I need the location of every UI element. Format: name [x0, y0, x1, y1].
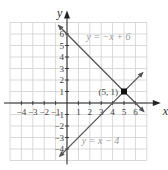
x-tick-label: 6 — [133, 107, 138, 117]
graph: xy −4−3−2−1123456−4−3−2−1123456 y = −x +… — [0, 0, 168, 170]
x-tick-label: −4 — [17, 107, 27, 117]
series-label: y = −x + 6 — [85, 31, 130, 42]
intersection-point-label: (5, 1) — [99, 87, 119, 97]
y-tick-label: −1 — [54, 110, 64, 120]
x-tick-label: 4 — [110, 107, 115, 117]
y-tick-label: 1 — [60, 87, 65, 97]
y-tick-label: 3 — [60, 64, 65, 74]
y-tick-label: −3 — [54, 133, 64, 143]
y-tick-label: 2 — [60, 75, 65, 85]
y-tick-label: 4 — [60, 52, 65, 62]
y-axis-arrow-icon — [64, 11, 70, 19]
x-axis-label: x — [162, 104, 168, 118]
annotations: (5, 1) — [99, 87, 128, 97]
y-tick-label: −2 — [54, 121, 64, 131]
intersection-point-marker — [121, 89, 127, 95]
series-label: y = x − 4 — [81, 135, 119, 146]
y-axis-label: y — [56, 6, 63, 20]
x-tick-label: 5 — [122, 107, 127, 117]
x-tick-label: −3 — [28, 107, 38, 117]
x-tick-label: 1 — [76, 107, 81, 117]
x-axis-arrow-icon — [153, 100, 161, 106]
x-tick-label: −2 — [39, 107, 49, 117]
x-tick-label: 2 — [88, 107, 93, 117]
y-tick-label: 5 — [60, 41, 65, 51]
